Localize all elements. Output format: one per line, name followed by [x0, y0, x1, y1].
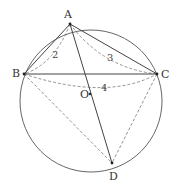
label-B: B: [12, 67, 20, 80]
geometry-diagram: A B C D O 2 3 4: [0, 0, 180, 186]
point-B: [23, 73, 26, 76]
segment-AB: [24, 24, 70, 74]
length-label-AB: 2: [52, 49, 58, 60]
dimension-arc-BC: [24, 74, 157, 88]
label-C: C: [161, 68, 169, 81]
point-C: [156, 73, 159, 76]
point-D: [111, 162, 114, 165]
label-A: A: [63, 8, 73, 21]
dashed-arcs: [24, 24, 157, 88]
point-O: [89, 93, 91, 95]
length-label-AC: 3: [107, 52, 113, 63]
label-O: O: [80, 88, 89, 101]
dashed-segment-CD: [112, 74, 157, 163]
point-A: [69, 23, 72, 26]
length-label-BC: 4: [101, 82, 107, 93]
label-D: D: [109, 170, 118, 183]
circumcircle: [20, 30, 162, 172]
